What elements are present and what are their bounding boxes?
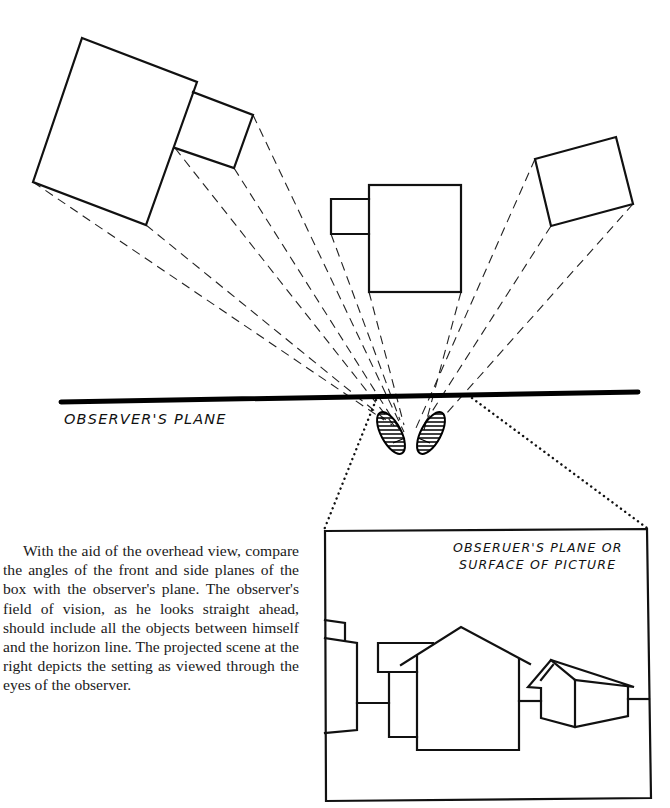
- sight-lines: [33, 115, 633, 432]
- observers-plane-label: OBSERVER'S PLANE: [64, 411, 227, 427]
- caption-paragraph: With the aid of the overhead view, compa…: [3, 541, 299, 695]
- back-building: [378, 643, 433, 672]
- picture-plane-label-line2: SURFACE OF PICTURE: [459, 557, 616, 572]
- field-of-view-right: [472, 398, 647, 528]
- projected-scene: [325, 620, 649, 750]
- footprints-icon: [370, 408, 455, 458]
- main-house: [417, 656, 519, 750]
- right-house: [528, 660, 634, 727]
- observers-plane-line: [61, 392, 638, 402]
- field-of-view-left: [324, 400, 376, 530]
- left-building: [325, 620, 345, 640]
- overhead-box-left: [33, 38, 253, 225]
- overhead-box-center: [331, 185, 461, 292]
- picture-plane-label-line1: OBSERUER'S PLANE OR: [453, 540, 623, 555]
- overhead-box-right: [535, 137, 633, 226]
